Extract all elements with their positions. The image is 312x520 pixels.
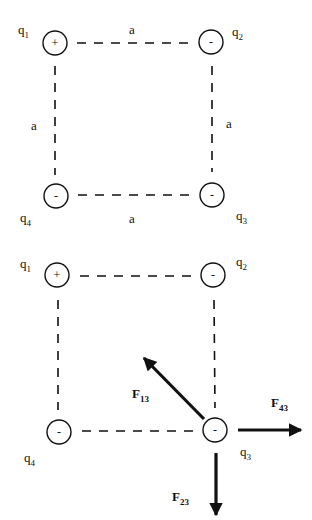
charge-label: q1 (20, 256, 31, 274)
side-length-label: a (129, 22, 135, 37)
charge-q4: -q4 (20, 184, 68, 228)
charge-q1: +q1 (20, 256, 69, 287)
side-length-label: a (129, 211, 135, 226)
charge-label: q1 (18, 22, 29, 40)
charge-q3: -q3 (203, 418, 252, 462)
force-diagram: +q1-q2-q3-q4F13F43F23 (20, 254, 301, 515)
minus-sign-icon: - (210, 188, 214, 202)
minus-sign-icon: - (209, 35, 213, 49)
minus-sign-icon: - (211, 268, 215, 282)
charge-label: q2 (236, 254, 247, 272)
force-vector-F23: F23 (172, 453, 216, 515)
force-vector-F13: F13 (132, 358, 204, 419)
force-label: F13 (132, 386, 149, 404)
charge-q2: -q2 (199, 24, 243, 54)
side-length-label: a (226, 116, 232, 131)
coulomb-force-diagram: aaaa+q1-q2-q3-q4+q1-q2-q3-q4F13F43F23 (0, 0, 312, 520)
minus-sign-icon: - (54, 189, 58, 203)
dashed-side (214, 300, 215, 408)
side-length-label: a (31, 118, 37, 133)
plus-sign-icon: + (54, 268, 61, 282)
force-vector-F43: F43 (238, 395, 301, 430)
charge-label: q3 (240, 444, 252, 462)
charge-q3: -q3 (200, 183, 248, 226)
charge-label: q2 (232, 24, 243, 42)
plus-sign-icon: + (52, 36, 59, 50)
charge-q2: -q2 (201, 254, 247, 287)
charge-q1: +q1 (18, 22, 67, 55)
force-label: F43 (271, 395, 288, 413)
force-arrow-icon (144, 358, 204, 419)
diagram-canvas: aaaa+q1-q2-q3-q4+q1-q2-q3-q4F13F43F23 (0, 0, 312, 520)
charge-q4: -q4 (24, 420, 71, 468)
charge-square: aaaa+q1-q2-q3-q4 (18, 22, 248, 228)
charge-label: q4 (24, 450, 36, 468)
force-label: F23 (172, 489, 189, 507)
minus-sign-icon: - (213, 423, 217, 437)
charge-label: q4 (20, 210, 32, 228)
minus-sign-icon: - (57, 425, 61, 439)
charge-label: q3 (236, 208, 248, 226)
